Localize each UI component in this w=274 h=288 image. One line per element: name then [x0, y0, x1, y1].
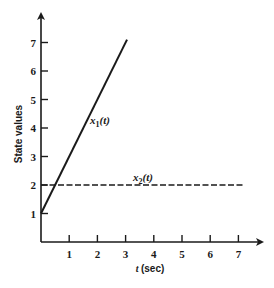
series-label-x1: x1(t) [89, 114, 110, 129]
x-tick-label: 4 [151, 248, 157, 260]
series-label-x2: x2(t) [132, 171, 153, 186]
axes: 12345671234567 [31, 14, 263, 260]
x-tick-label: 1 [66, 248, 72, 260]
y-tick-label: 4 [31, 122, 37, 134]
chart: 12345671234567 x1(t)x2(t)t (sec)State va… [0, 0, 274, 288]
y-tick-label: 6 [31, 65, 37, 77]
y-tick-label: 1 [31, 208, 37, 220]
series-group [41, 40, 244, 214]
x-tick-label: 5 [179, 248, 185, 260]
x-tick-label: 6 [207, 248, 213, 260]
y-tick-label: 5 [31, 94, 37, 106]
x-tick-label: 3 [123, 248, 129, 260]
y-tick-label: 3 [31, 151, 37, 163]
y-axis-label: State values [13, 104, 24, 163]
x-axis-label: t (sec) [136, 263, 165, 274]
x-tick-label: 2 [95, 248, 101, 260]
x-tick-label: 7 [236, 248, 242, 260]
y-tick-label: 7 [31, 37, 37, 49]
series-line-1 [41, 40, 127, 214]
y-tick-label: 2 [31, 179, 37, 191]
